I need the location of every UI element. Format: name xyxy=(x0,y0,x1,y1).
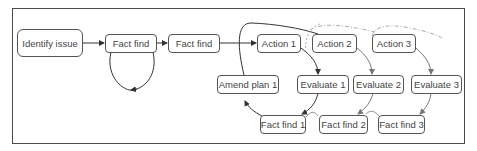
node-fact-find-b: Fact find xyxy=(168,34,220,53)
node-amend-plan-1: Amend plan 1 xyxy=(217,75,279,94)
edge-factfind1-amend1 xyxy=(245,101,262,116)
node-evaluate-2: Evaluate 2 xyxy=(353,75,404,94)
edge-action3-evaluate3 xyxy=(416,48,431,74)
node-fact-find-3: Fact find 3 xyxy=(378,115,425,134)
node-action-2: Action 2 xyxy=(312,34,357,53)
node-identify-issue: Identify issue xyxy=(17,29,83,57)
node-evaluate-1: Evaluate 1 xyxy=(297,75,349,94)
node-fact-find-2: Fact find 2 xyxy=(319,115,368,134)
node-evaluate-3: Evaluate 3 xyxy=(411,75,462,94)
edge-dashed-arc-1 xyxy=(310,25,375,32)
edge-factfind-loop xyxy=(110,52,154,90)
edge-action2-evaluate2 xyxy=(357,48,372,74)
edge-evaluate1-factfind1 xyxy=(302,93,318,114)
node-fact-find-a: Fact find xyxy=(105,34,157,53)
node-action-1: Action 1 xyxy=(257,34,301,53)
edge-evaluate3-factfind3 xyxy=(420,93,431,114)
node-action-3: Action 3 xyxy=(372,34,416,53)
edge-evaluate2-factfind2 xyxy=(358,93,373,114)
node-fact-find-1: Fact find 1 xyxy=(260,115,306,134)
